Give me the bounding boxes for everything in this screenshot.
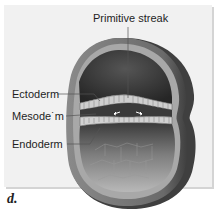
label-primitive-streak: Primitive streak — [93, 12, 168, 24]
label-endoderm: Endoderm — [12, 138, 63, 150]
label-ectoderm: Ectoderm — [12, 88, 59, 100]
yolk-sac-cavity — [79, 123, 175, 192]
embryo-cross-section-illustration — [0, 0, 219, 216]
panel-letter: d. — [7, 191, 18, 207]
label-mesoderm: Mesode˙m — [12, 110, 64, 122]
